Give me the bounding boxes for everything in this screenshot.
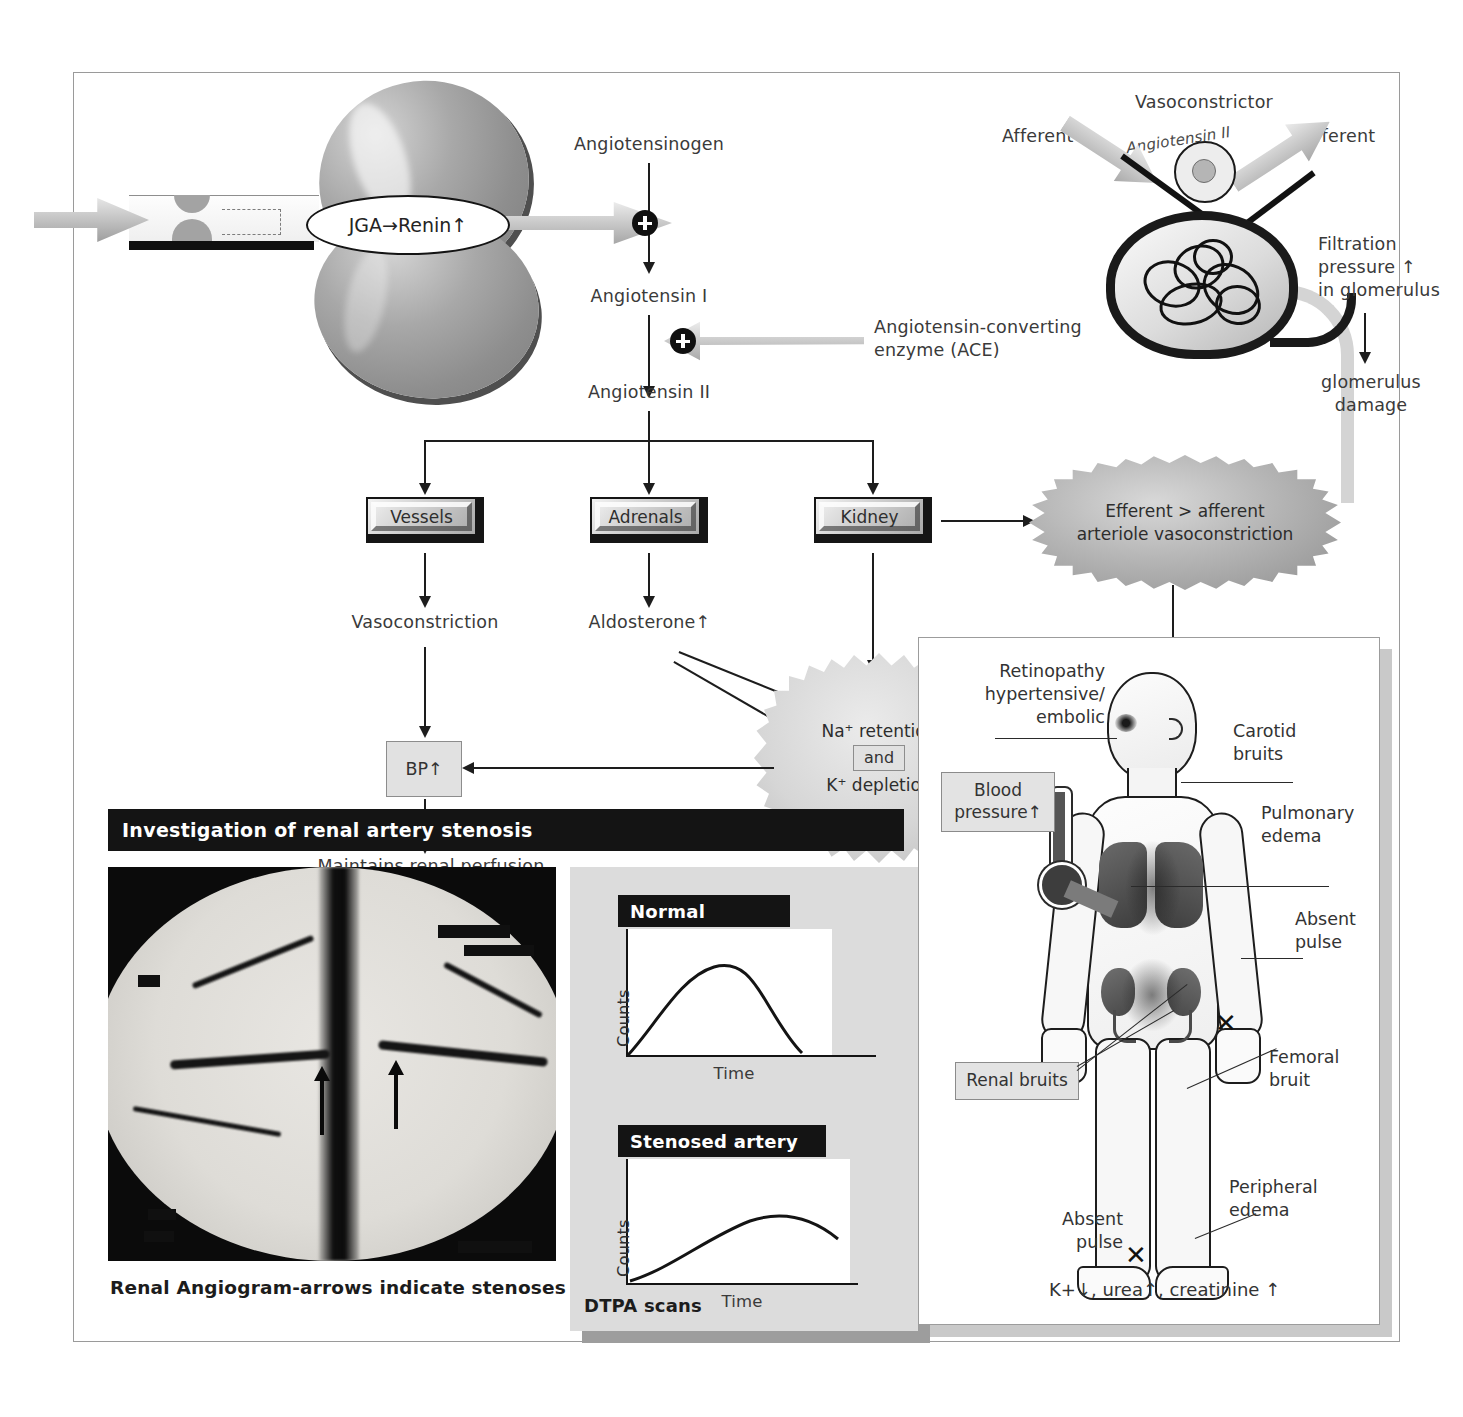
aldosterone-label: Aldosterone↑ bbox=[552, 611, 747, 634]
arrow-filtration-to-damage bbox=[1364, 313, 1366, 353]
bp-box-label: BP↑ bbox=[405, 759, 442, 779]
jga-renin-label: JGA→Renin↑ bbox=[306, 195, 510, 255]
femoral-bruit-label: Femoral bruit bbox=[1269, 1046, 1339, 1092]
filtration-pressure-label: Filtration pressure ↑ in glomerulus bbox=[1318, 233, 1440, 302]
and-box-label: and bbox=[864, 748, 894, 769]
vessels-box[interactable]: Vessels bbox=[366, 497, 484, 543]
arrow-at1-to-at2 bbox=[648, 315, 650, 387]
pulmonary-edema-leader bbox=[1131, 886, 1329, 887]
angiogram-marker-bottomleft bbox=[148, 1209, 176, 1220]
macula-densa-nucleus bbox=[1192, 159, 1216, 183]
angiogram-caption: Renal Angiogram-arrows indicate stenoses bbox=[110, 1277, 566, 1298]
dtpa-stenosed-plot bbox=[626, 1159, 850, 1285]
figure-eye-lesion bbox=[1115, 714, 1137, 732]
renal-bruits-box[interactable]: Renal bruits bbox=[955, 1062, 1079, 1100]
glomerulus-illustration: Vasoconstrictor Afferent Efferent Angiot… bbox=[1034, 83, 1364, 413]
angiogram-marker-left bbox=[138, 975, 160, 987]
stenosed-curve bbox=[626, 1159, 850, 1285]
jga-renin-text: JGA→Renin↑ bbox=[349, 214, 468, 236]
arrow-adrenals-to-aldosterone bbox=[648, 553, 650, 597]
dtpa-normal-title-bar: Normal bbox=[618, 895, 790, 927]
bloods-label: K+↓, urea↑, creatinine ↑ bbox=[1049, 1278, 1280, 1301]
stenosis-arrow-left bbox=[320, 1079, 324, 1135]
branch-to-kidney bbox=[872, 440, 874, 484]
absent-pulse-foot-x-icon: ✕ bbox=[1125, 1240, 1147, 1270]
kidney-box[interactable]: Kidney bbox=[814, 497, 932, 543]
carotid-bruits-label: Carotid bruits bbox=[1233, 720, 1296, 766]
normal-x-axis-label: Time bbox=[674, 1063, 794, 1085]
glomerulus-damage-label: glomerulus damage bbox=[1306, 371, 1436, 417]
peripheral-edema-label: Peripheral edema bbox=[1229, 1176, 1318, 1222]
retinopathy-label: Retinopathy hypertensive/ embolic bbox=[975, 660, 1105, 728]
kidney-box-label: Kidney bbox=[841, 507, 899, 527]
blood-pressure-box[interactable]: Blood pressure↑ bbox=[941, 772, 1055, 832]
and-box: and bbox=[853, 745, 905, 771]
angiotensin-ii-label: Angiotensin II bbox=[539, 381, 759, 404]
angiotensin-i-label: Angiotensin I bbox=[539, 285, 759, 308]
renin-plus-icon bbox=[632, 210, 658, 236]
dtpa-normal-plot bbox=[626, 929, 832, 1057]
angiogram-aorta bbox=[319, 867, 359, 1261]
carotid-bruits-leader bbox=[1181, 782, 1293, 783]
arrow-burst-to-gfr bbox=[1172, 585, 1174, 639]
absent-pulse-arm-x-icon: ✕ bbox=[1215, 1008, 1237, 1038]
stenosis-arrow-right bbox=[394, 1073, 398, 1129]
angiotensinogen-label: Angiotensinogen bbox=[529, 133, 769, 156]
adrenals-box-label: Adrenals bbox=[609, 507, 683, 527]
stenosed-y-axis-label: Counts bbox=[614, 1219, 633, 1277]
absent-pulse-arm-leader bbox=[1241, 958, 1303, 959]
investigation-header-bar: Investigation of renal artery stenosis bbox=[108, 809, 904, 851]
ace-plus-icon bbox=[670, 328, 696, 354]
branch-to-vessels bbox=[424, 440, 426, 484]
retinopathy-leader bbox=[995, 738, 1117, 739]
normal-curve bbox=[626, 929, 832, 1057]
arrow-burst-to-bp bbox=[474, 767, 774, 769]
arrow-kidney-to-na-burst bbox=[872, 553, 874, 661]
dtpa-normal-title: Normal bbox=[630, 901, 705, 922]
arrow-vasoconstriction-to-bp bbox=[424, 647, 426, 727]
angiogram-marker-bottomleft-2 bbox=[144, 1231, 174, 1242]
dtpa-panel: Normal Counts Time Stenosed artery Count… bbox=[570, 867, 918, 1331]
investigation-header-text: Investigation of renal artery stenosis bbox=[122, 819, 533, 841]
renal-bruits-label: Renal bruits bbox=[966, 1070, 1068, 1092]
glomerular-tuft bbox=[1139, 235, 1269, 335]
angiogram-marker-topright bbox=[438, 925, 510, 938]
angiogram-marker-bottomright bbox=[458, 1241, 532, 1253]
dtpa-caption: DTPA scans bbox=[584, 1295, 702, 1316]
artery-wall-dark bbox=[129, 241, 314, 250]
dtpa-stenosed-title: Stenosed artery bbox=[630, 1131, 798, 1152]
branch-to-adrenals bbox=[648, 440, 650, 484]
vasoconstriction-label: Vasoconstriction bbox=[319, 611, 531, 634]
pulmonary-edema-shading bbox=[1125, 840, 1181, 936]
pulmonary-edema-label: Pulmonary edema bbox=[1261, 802, 1354, 848]
clinical-signs-panel: ✕ ✕ Retinopathy hypertensive/ embolic Bl… bbox=[918, 637, 1380, 1325]
blood-pressure-label: Blood pressure↑ bbox=[954, 780, 1042, 824]
renal-angiogram-image bbox=[108, 867, 556, 1261]
figure-frame: JGA→Renin↑ Angiotensinogen Angiotensin I… bbox=[73, 72, 1400, 1342]
absent-pulse-leg-label: Absent pulse bbox=[1047, 1208, 1123, 1254]
k-depletion-text: K⁺ depletion bbox=[826, 774, 931, 796]
dtpa-stenosed-title-bar: Stenosed artery bbox=[618, 1125, 826, 1157]
vasoconstrictor-label: Vasoconstrictor bbox=[1094, 91, 1314, 114]
bp-box[interactable]: BP↑ bbox=[386, 741, 462, 797]
absent-pulse-arm-label: Absent pulse bbox=[1295, 908, 1356, 954]
arrow-vessels-to-vasoconstriction bbox=[424, 553, 426, 597]
angiogram-marker-topright-2 bbox=[464, 945, 534, 956]
normal-y-axis-label: Counts bbox=[614, 989, 633, 1047]
arrow-kidney-to-efferent-burst bbox=[941, 520, 1023, 522]
at2-stem bbox=[648, 411, 650, 441]
stenosis-dashed-outline bbox=[222, 209, 281, 235]
adrenals-box[interactable]: Adrenals bbox=[590, 497, 708, 543]
figure-canvas: JGA→Renin↑ Angiotensinogen Angiotensin I… bbox=[0, 0, 1463, 1417]
vessels-box-label: Vessels bbox=[390, 507, 453, 527]
efferent-arteriole-arrow bbox=[1221, 103, 1341, 203]
figure-right-ureter bbox=[1169, 1010, 1192, 1043]
figure-right-leg bbox=[1155, 1038, 1211, 1282]
